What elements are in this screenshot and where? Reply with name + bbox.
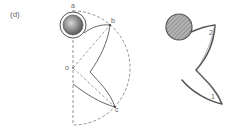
right-shape — [166, 14, 222, 104]
point-c-label: c — [115, 106, 119, 113]
point-b-marker — [109, 24, 111, 26]
point-o-label: o — [65, 64, 69, 71]
figure-canvas: (d) a b o c 2 1 — [0, 0, 232, 128]
label-two: 2 — [209, 29, 213, 36]
point-a-label: a — [71, 2, 75, 9]
ball-icon — [63, 15, 83, 35]
dashed-line-o-c — [73, 68, 115, 107]
left-construction — [60, 10, 130, 125]
panel-label: (d) — [10, 11, 20, 19]
boomerang-outline — [73, 25, 115, 107]
point-o-marker — [72, 67, 74, 69]
point-b-label: b — [111, 17, 115, 24]
hatched-ball-icon — [166, 14, 192, 40]
label-one: 1 — [211, 93, 215, 100]
